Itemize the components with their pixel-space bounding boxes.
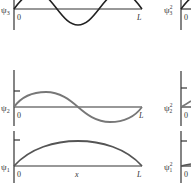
psi2-squared-label: ψ22 bbox=[164, 102, 173, 114]
origin-label: 0 bbox=[17, 111, 21, 120]
panel-psi3: ψ3 0 L bbox=[1, 0, 142, 30]
panel-psi3-squared: ψ23 0 bbox=[164, 0, 191, 30]
psi3-label: ψ3 bbox=[1, 5, 10, 16]
panel-psi1-squared: ψ21 0 bbox=[164, 131, 191, 183]
psi3-squared-label: ψ23 bbox=[164, 4, 173, 16]
origin-label: 0 bbox=[17, 170, 21, 179]
wavefunction-diagram: ψ3 0 L ψ2 0 L ψ1 0 x L ψ23 0 ψ22 0 bbox=[0, 0, 191, 183]
panel-psi2: ψ2 0 L bbox=[1, 70, 144, 126]
psi1-curve bbox=[14, 141, 142, 166]
x-label: x bbox=[74, 170, 79, 179]
psi2-label: ψ2 bbox=[1, 103, 10, 114]
end-label: L bbox=[136, 170, 142, 179]
psi1-label: ψ1 bbox=[1, 162, 10, 173]
end-label: L bbox=[136, 13, 142, 22]
origin-label: 0 bbox=[17, 13, 21, 22]
origin-label: 0 bbox=[184, 13, 188, 22]
psi2-squared-curve bbox=[181, 101, 191, 107]
psi3-squared-curve bbox=[181, 0, 191, 9]
origin-label: 0 bbox=[184, 170, 188, 179]
psi3-curve bbox=[14, 0, 142, 25]
psi1-squared-label: ψ21 bbox=[164, 161, 173, 173]
origin-label: 0 bbox=[184, 111, 188, 120]
panel-psi1: ψ1 0 x L bbox=[1, 131, 142, 183]
end-label: L bbox=[138, 111, 144, 120]
panel-psi2-squared: ψ22 0 bbox=[164, 71, 191, 126]
